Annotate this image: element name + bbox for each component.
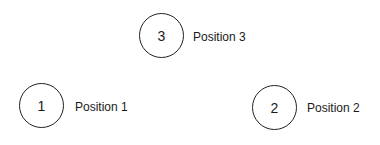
position-1-circle: 1 [19,83,64,128]
position-3-number: 3 [158,28,166,44]
position-3-circle: 3 [139,13,184,58]
position-2-label: Position 2 [307,101,360,115]
position-1-number: 1 [38,98,46,114]
position-2-circle: 2 [252,85,297,130]
position-1-label: Position 1 [75,100,128,114]
position-3-label: Position 3 [193,30,246,44]
position-2-number: 2 [271,100,279,116]
